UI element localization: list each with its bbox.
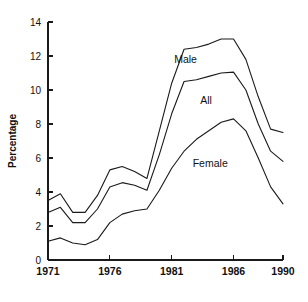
x-tick-label-1976: 1976 [98, 265, 122, 277]
y-tick-label-6: 6 [35, 153, 41, 164]
y-tick-label-14: 14 [30, 17, 42, 28]
series-label-all: All [200, 94, 212, 106]
x-tick-label-1971: 1971 [36, 265, 60, 277]
series-lines [48, 39, 283, 245]
y-tick-label-10: 10 [30, 85, 42, 96]
y-tick-label-4: 4 [35, 187, 41, 198]
y-tick-label-12: 12 [30, 51, 42, 62]
y-axis: 02468101214 [30, 17, 53, 266]
y-tick-label-8: 8 [35, 119, 41, 130]
y-axis-title: Percentage [7, 114, 18, 168]
x-tick-label-1990: 1990 [271, 265, 295, 277]
y-tick-label-2: 2 [35, 221, 41, 232]
y-tick-label-0: 0 [35, 255, 41, 266]
axis-titles: Percentage [7, 114, 18, 168]
series-line-female [48, 119, 283, 245]
series-annotations: MaleAllFemale [174, 53, 228, 169]
series-label-female: Female [193, 157, 228, 169]
chart-container: 02468101214 19711976198119861990 MaleAll… [0, 0, 308, 302]
percentage-line-chart: 02468101214 19711976198119861990 MaleAll… [0, 0, 308, 302]
series-line-male [48, 39, 283, 212]
x-axis: 19711976198119861990 [36, 255, 295, 277]
series-label-male: Male [174, 53, 197, 65]
x-tick-label-1986: 1986 [222, 265, 246, 277]
series-line-all [48, 72, 283, 222]
x-tick-label-1981: 1981 [160, 265, 184, 277]
